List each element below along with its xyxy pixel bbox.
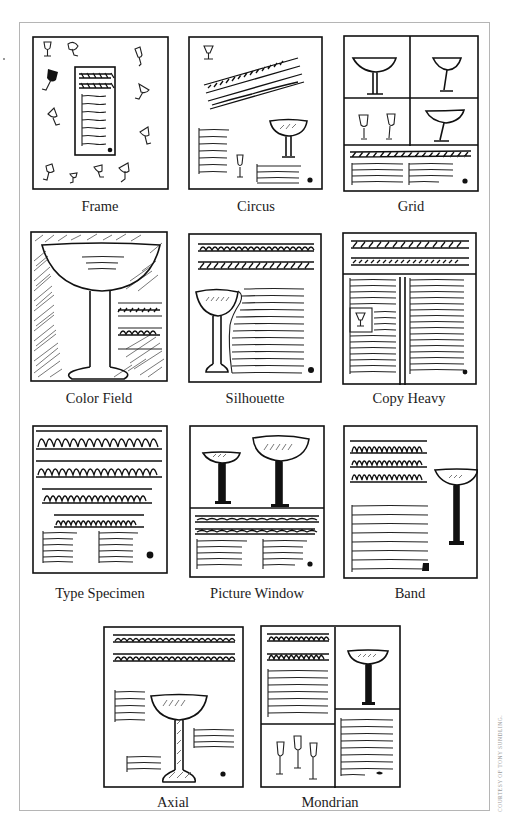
layout-axial [103,626,244,788]
label-grid: Grid [331,198,491,214]
label-copy-heavy: Copy Heavy [329,390,489,406]
band-sketch [343,425,478,579]
frame-sketch [32,36,169,191]
silhouette-sketch [188,233,322,384]
layout-frame [32,36,169,191]
margin-mark [3,58,5,60]
axial-sketch [103,626,244,788]
layout-circus [188,36,323,191]
photo-credit: COURTESY OF TONY SUNDLING. [497,715,503,812]
color-field-sketch [30,231,168,382]
label-frame: Frame [20,198,180,214]
label-silhouette: Silhouette [175,390,335,406]
label-picture-window: Picture Window [177,585,337,601]
flute-icon [237,155,243,177]
layout-copy-heavy [342,232,477,385]
mondrian-sketch [260,625,401,788]
layout-grid [343,35,479,193]
grid-sketch [343,35,479,193]
label-band: Band [330,585,490,601]
layout-mondrian [260,625,401,788]
layout-band [343,425,478,579]
layout-silhouette [188,233,322,384]
label-type-specimen: Type Specimen [20,585,180,601]
label-axial: Axial [93,794,253,810]
circus-sketch [188,36,323,191]
picture-window-sketch [189,425,325,578]
label-mondrian: Mondrian [250,794,410,810]
label-color-field: Color Field [19,390,179,406]
layout-picture-window [189,425,325,578]
layout-type-specimen [32,425,168,575]
type-specimen-sketch [32,425,168,575]
layout-color-field [30,231,168,382]
label-circus: Circus [176,198,336,214]
copy-heavy-sketch [342,232,477,385]
